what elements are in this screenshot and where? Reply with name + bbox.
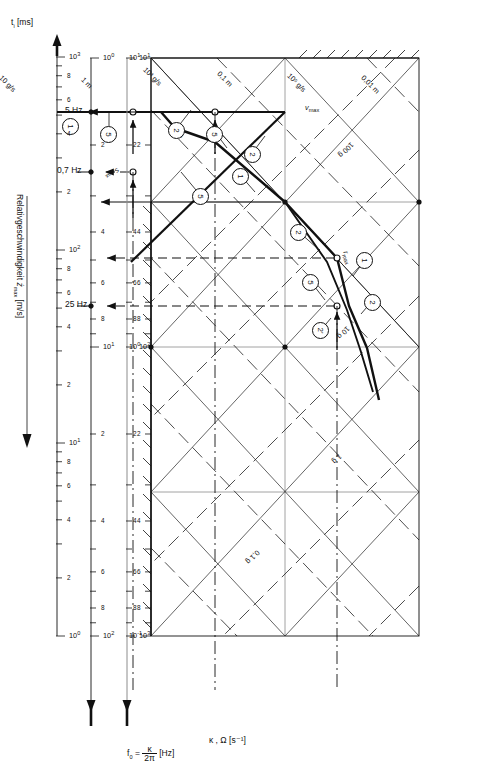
ti-minor-1-4: 4 — [67, 324, 71, 330]
kappa-minor-0-6: 6 — [137, 280, 141, 286]
y-minor-1-8: 8 — [133, 605, 137, 611]
kappa-minor-0-8: 8 — [137, 316, 141, 322]
callout-5b: 5 — [302, 274, 319, 291]
f0-decade-2: 102 — [103, 631, 114, 640]
rotated-canvas: κ , Ω [s⁻¹] f0 = κ 2π [Hz] ti [ms] — [0, 0, 477, 770]
callout-2d: 2 — [244, 146, 261, 163]
ti-minor-2-2: 2 — [67, 189, 71, 195]
f0-decade-0: 100 — [103, 53, 114, 62]
y-decade-2: 10-1 — [129, 631, 142, 640]
f0-minor-0-2: 2 — [101, 142, 105, 148]
curve-label-v-max: vmax — [305, 104, 319, 114]
f0-minor-0-6: 6 — [101, 280, 105, 286]
kappa-decade-0: 101 — [139, 53, 150, 62]
callout-2prime: 2' — [312, 322, 329, 339]
ti-minor-2-6: 6 — [67, 97, 71, 103]
f0-minor-0-8: 8 — [101, 316, 105, 322]
kappa-minor-0-2: 2 — [137, 142, 141, 148]
kappa-minor-1-6: 6 — [137, 569, 141, 575]
y-decade-1: 100 — [129, 342, 140, 351]
f0-minor-1-2: 2 — [101, 431, 105, 437]
f0-minor-1-4: 4 — [101, 518, 105, 524]
ti-minor-1-6: 6 — [67, 290, 71, 296]
kappa-minor-1-2: 2 — [137, 431, 141, 437]
ti-minor-2-4: 4 — [67, 131, 71, 137]
f0-minor-1-8: 8 — [101, 605, 105, 611]
ti-symbol-sub: i — [13, 23, 14, 29]
frequency-marker-25hz: 25 Hz — [65, 300, 87, 309]
kappa-axis-title: κ , Ω [s⁻¹] — [209, 736, 246, 745]
ti-minor-0-2: 2 — [67, 575, 71, 581]
y-axis-title-text: Relativgeschwindigkeit — [15, 194, 25, 280]
f0-axis-title: f0 = κ 2π [Hz] — [127, 742, 174, 763]
callout-2c: 2 — [168, 122, 185, 139]
ti-decade-1: 101 — [69, 438, 80, 447]
callout-2b: 2 — [364, 294, 381, 311]
f0-decade-1: 101 — [103, 342, 114, 351]
f0-minor-0-4: 4 — [101, 229, 105, 235]
callout-1a: 1 — [232, 168, 249, 185]
ti-decade-3: 103 — [69, 52, 80, 61]
ti-minor-0-6: 6 — [67, 483, 71, 489]
ti-minor-1-8: 8 — [67, 266, 71, 272]
callout-5d: 5 — [206, 126, 223, 143]
y-decade-0: 101 — [129, 53, 140, 62]
y-minor-1-2: 2 — [133, 431, 137, 437]
ti-decade-0: 100 — [69, 631, 80, 640]
ti-minor-0-8: 8 — [67, 459, 71, 465]
y-minor-1-6: 6 — [133, 569, 137, 575]
ti-minor-2-8: 8 — [67, 73, 71, 79]
f0-minor-1-6: 6 — [101, 569, 105, 575]
ti-minor-1-2: 2 — [67, 382, 71, 388]
y-minor-0-2: 2 — [133, 142, 137, 148]
y-axis-symbol-sub: max — [13, 287, 19, 298]
frequency-marker-07hz: 0,7 Hz — [57, 166, 82, 175]
callout-2a: 2 — [290, 224, 307, 241]
tick-marks — [0, 0, 477, 770]
ti-decade-2: 102 — [69, 245, 80, 254]
y-minor-0-6: 6 — [133, 280, 137, 286]
nomogram-figure: κ , Ω [s⁻¹] f0 = κ 2π [Hz] ti [ms] — [0, 0, 477, 770]
kappa-minor-0-4: 4 — [137, 229, 141, 235]
kappa-minor-1-8: 8 — [137, 605, 141, 611]
ti-unit: [ms] — [17, 17, 33, 27]
f0-unit: [Hz] — [159, 748, 174, 758]
f0-equals: = — [135, 748, 140, 758]
y-minor-1-4: 4 — [133, 518, 137, 524]
kappa-minor-1-4: 4 — [137, 518, 141, 524]
kappa-decade-1: 102 — [139, 342, 150, 351]
y-minor-0-8: 8 — [133, 316, 137, 322]
f0-denominator: 2π — [142, 754, 157, 763]
frequency-marker-5hz: 5 Hz — [65, 106, 82, 115]
f0-symbol-sub: 0 — [129, 754, 132, 760]
y-axis-unit: [m/s] — [15, 300, 25, 318]
callout-1b: 1 — [356, 252, 373, 269]
y-minor-0-4: 4 — [133, 229, 137, 235]
callout-5a: 5 — [192, 188, 209, 205]
ti-minor-0-4: 4 — [67, 517, 71, 523]
